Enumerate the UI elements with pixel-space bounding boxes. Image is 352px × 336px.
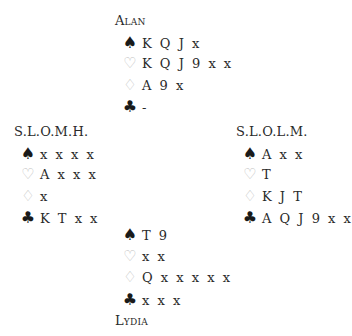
south-hearts-row: ♡x x [115,246,232,268]
north-hand: Alan ♠K Q J x ♡K Q J 9 x x ♢A 9 x ♣- [115,10,233,118]
diamond-icon: ♢ [120,267,140,289]
west-diamonds-cards: x [40,186,49,208]
spade-icon: ♠ [18,143,38,165]
south-clubs-cards: x x x [142,290,182,312]
east-player-name: S.L.O.L.M. [236,121,352,143]
west-hand: S.L.O.M.H. ♠x x x x ♡A x x x ♢x ♣K T x x [14,121,99,229]
south-spades-cards: T 9 [142,225,169,247]
east-hand: S.L.O.L.M. ♠A x x ♡T ♢K J T ♣A Q J 9 x x [236,121,352,229]
east-clubs-cards: A Q J 9 x x [262,208,352,230]
east-hearts-row: ♡T [236,164,352,186]
west-player-name: S.L.O.M.H. [14,121,99,143]
east-spades-row: ♠A x x [236,143,352,165]
heart-icon: ♡ [18,164,38,186]
north-diamonds-row: ♢A 9 x [115,75,233,97]
north-diamonds-cards: A 9 x [142,75,185,97]
north-clubs-cards: - [142,97,148,119]
club-icon: ♣ [120,289,140,311]
west-spades-row: ♠x x x x [14,143,99,165]
south-diamonds-cards: Q x x x x x [142,267,232,289]
west-spades-cards: x x x x [40,144,96,166]
west-hearts-cards: A x x x [40,164,98,186]
west-clubs-row: ♣K T x x [14,207,99,229]
club-icon: ♣ [120,96,140,118]
north-hearts-cards: K Q J 9 x x [142,53,233,75]
south-hand: ♠T 9 ♡x x ♢Q x x x x x ♣x x x Lydia [115,224,232,332]
north-hearts-row: ♡K Q J 9 x x [115,53,233,75]
east-diamonds-row: ♢K J T [236,186,352,208]
south-spades-row: ♠T 9 [115,224,232,246]
east-clubs-row: ♣A Q J 9 x x [236,207,352,229]
heart-icon: ♡ [120,246,140,268]
east-hearts-cards: T [262,164,273,186]
west-diamonds-row: ♢x [14,186,99,208]
diamond-icon: ♢ [18,186,38,208]
diamond-icon: ♢ [120,75,140,97]
heart-icon: ♡ [240,164,260,186]
west-clubs-cards: K T x x [40,208,99,230]
south-hearts-cards: x x [142,246,167,268]
north-spades-cards: K Q J x [142,33,201,55]
east-spades-cards: A x x [262,144,304,166]
club-icon: ♣ [18,207,38,229]
south-diamonds-row: ♢Q x x x x x [115,267,232,289]
diamond-icon: ♢ [240,186,260,208]
heart-icon: ♡ [120,53,140,75]
north-player-name: Alan [115,10,233,32]
south-clubs-row: ♣x x x [115,289,232,311]
spade-icon: ♠ [240,143,260,165]
north-clubs-row: ♣- [115,96,233,118]
south-player-name: Lydia [115,310,232,332]
east-diamonds-cards: K J T [262,186,304,208]
spade-icon: ♠ [120,224,140,246]
west-hearts-row: ♡A x x x [14,164,99,186]
club-icon: ♣ [240,207,260,229]
spade-icon: ♠ [120,32,140,54]
north-spades-row: ♠K Q J x [115,32,233,54]
